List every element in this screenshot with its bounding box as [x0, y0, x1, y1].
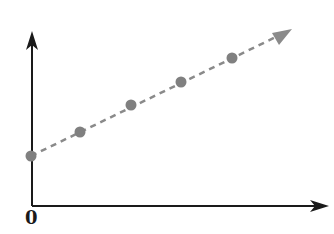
- data-point: [26, 151, 37, 162]
- data-points: [26, 53, 238, 162]
- trend-arrow-icon: [272, 29, 292, 45]
- axes: [26, 31, 329, 212]
- origin-label: 0: [25, 207, 38, 228]
- data-point: [176, 77, 187, 88]
- data-point: [227, 53, 238, 64]
- chart: [0, 0, 334, 234]
- data-point: [75, 127, 86, 138]
- trend-line: [31, 29, 292, 156]
- data-point: [126, 100, 137, 111]
